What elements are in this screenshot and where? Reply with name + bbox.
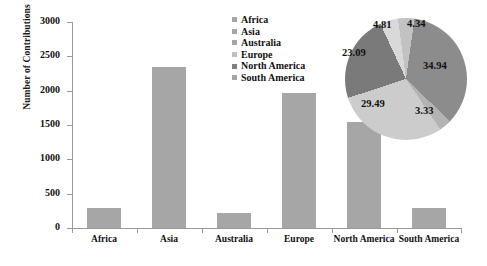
pie-label-asia: 34.94 [423, 60, 447, 71]
y-tick-500: 500 [67, 194, 72, 195]
legend-label-south-america: South America [241, 72, 305, 84]
legend-label-australia: Australia [241, 37, 281, 49]
x-label-australia: Australia [197, 234, 271, 246]
y-axis-line [72, 22, 73, 228]
y-tick-2500: 2500 [67, 56, 72, 57]
y-tick-label-2000: 2000 [40, 84, 60, 95]
x-label-asia: Asia [132, 234, 206, 246]
legend-item-africa: Africa [232, 14, 305, 26]
pie-label-europe: 29.49 [361, 98, 385, 109]
x-label-south-america: South America [392, 234, 466, 246]
legend-label-europe: Europe [241, 49, 273, 61]
y-tick-label-1500: 1500 [40, 118, 60, 129]
x-tick-4 [332, 228, 333, 233]
bar-asia [152, 67, 186, 228]
x-tick-0 [72, 228, 73, 233]
chart-figure: Number of Contributions 0 500 1000 1500 … [0, 0, 487, 266]
pie-slices [345, 18, 467, 140]
legend-swatch-icon-north-america [232, 64, 237, 69]
y-axis-title: Number of Contributions [22, 0, 32, 142]
x-tick-2 [202, 228, 203, 233]
x-label-africa: Africa [67, 234, 141, 246]
y-tick-3000: 3000 [67, 22, 72, 23]
pie-chart: 34.94 3.33 29.49 23.09 4.81 4.34 [345, 18, 467, 140]
bar-africa [87, 208, 121, 228]
legend-swatch-icon-australia [232, 40, 237, 45]
legend-swatch-icon-south-america [232, 75, 237, 80]
legend-label-north-america: North America [241, 60, 305, 72]
legend-label-asia: Asia [241, 26, 260, 38]
legend-swatch-icon-asia [232, 29, 237, 34]
pie-label-australia: 4.34 [407, 18, 425, 29]
legend-label-africa: Africa [241, 14, 268, 26]
y-tick-label-500: 500 [45, 187, 60, 198]
x-tick-5 [397, 228, 398, 233]
legend-swatch-icon-africa [232, 17, 237, 22]
pie-label-africa: 4.81 [373, 19, 391, 30]
y-tick-2000: 2000 [67, 91, 72, 92]
legend-item-australia: Australia [232, 37, 305, 49]
legend-item-europe: Europe [232, 49, 305, 61]
bar-europe [282, 93, 316, 228]
x-tick-6 [461, 228, 462, 233]
pie-label-south-america: 3.33 [415, 105, 433, 116]
x-label-europe: Europe [262, 234, 336, 246]
legend-swatch-icon-europe [232, 52, 237, 57]
legend-item-north-america: North America [232, 60, 305, 72]
x-tick-3 [267, 228, 268, 233]
chart-legend: Africa Asia Australia Europe North Ameri… [232, 14, 305, 84]
x-tick-1 [137, 228, 138, 233]
y-tick-label-2500: 2500 [40, 49, 60, 60]
legend-item-asia: Asia [232, 26, 305, 38]
y-tick-label-0: 0 [55, 221, 60, 232]
bar-south-america [412, 208, 446, 228]
y-tick-label-3000: 3000 [40, 15, 60, 26]
y-tick-1500: 1500 [67, 125, 72, 126]
pie-label-north-america: 23.09 [342, 47, 366, 58]
y-tick-label-1000: 1000 [40, 152, 60, 163]
y-tick-1000: 1000 [67, 159, 72, 160]
bar-australia [217, 213, 251, 228]
legend-item-south-america: South America [232, 72, 305, 84]
x-label-north-america: North America [327, 234, 401, 246]
